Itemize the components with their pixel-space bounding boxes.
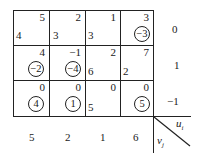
cost-r1-c1: −1 <box>61 47 81 58</box>
check-circle-r1-c1: −4 <box>65 61 81 77</box>
check-circle-r2-c1: 1 <box>65 96 81 112</box>
cost-r0-c2: 1 <box>96 12 116 23</box>
alloc-r0-c0: 4 <box>16 30 22 41</box>
cost-r0-c1: 2 <box>61 12 81 23</box>
cost-r0-c3: 3 <box>129 12 149 23</box>
check-circle-r0-c3: −3 <box>134 26 150 42</box>
alloc-r0-c1: 3 <box>53 30 59 41</box>
u-r0: 0 <box>172 24 178 35</box>
u-label: ui <box>176 118 183 134</box>
cost-r1-c2: 2 <box>96 47 116 58</box>
check-circle-r2-c3: 5 <box>134 96 150 112</box>
v-label-sub: j <box>162 141 164 149</box>
alloc-r1-c2: 6 <box>88 66 94 77</box>
cost-r0-c0: 5 <box>25 12 45 23</box>
v-c0: 5 <box>29 132 35 143</box>
v-c1: 2 <box>65 132 71 143</box>
cost-r2-c2: 0 <box>96 82 116 93</box>
cost-r2-c3: 0 <box>129 82 149 93</box>
check-circle-r1-c0: −2 <box>28 61 44 77</box>
alloc-r0-c2: 3 <box>88 30 94 41</box>
alloc-r1-c3: 2 <box>123 66 129 77</box>
v-c3: 6 <box>133 132 139 143</box>
u-label-sub: i <box>182 124 184 132</box>
u-r1: 1 <box>174 60 180 71</box>
u-r2: −1 <box>167 96 179 107</box>
check-circle-r2-c0: 4 <box>28 96 44 112</box>
cost-r2-c1: 0 <box>61 82 81 93</box>
cost-r1-c3: 7 <box>129 47 149 58</box>
cost-r1-c0: 4 <box>25 47 45 58</box>
cost-r2-c0: 0 <box>25 82 45 93</box>
v-label: vj <box>157 135 164 151</box>
v-c2: 1 <box>100 132 106 143</box>
alloc-r2-c2: 5 <box>88 102 94 113</box>
